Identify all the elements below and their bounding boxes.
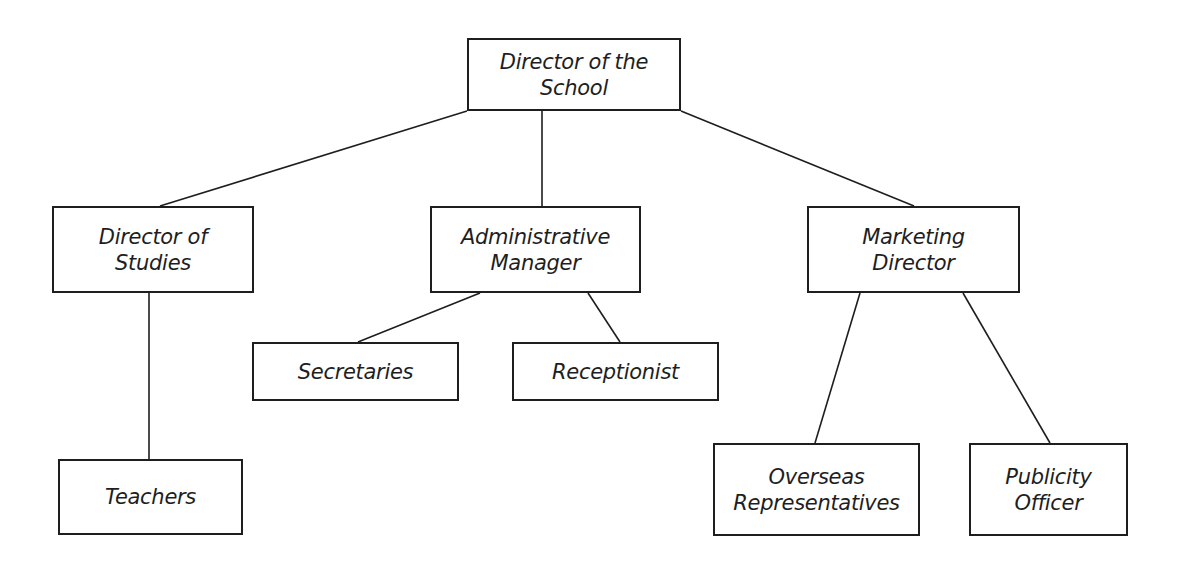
node-secretaries: Secretaries (252, 342, 459, 401)
node-label-line: Overseas (733, 464, 900, 490)
node-publicity: PublicityOfficer (969, 443, 1128, 536)
node-label-line: Teachers (105, 484, 196, 510)
org-chart: Director of theSchoolDirector ofStudiesA… (0, 0, 1177, 570)
connector-director-studies (160, 111, 467, 206)
connector-marketing-publicity (963, 293, 1050, 443)
node-label-line: Officer (1005, 490, 1091, 516)
node-receptionist: Receptionist (512, 342, 719, 401)
node-label-line: Studies (99, 250, 207, 276)
connector-admin-receptionist (588, 293, 620, 342)
connector-admin-secretaries (358, 293, 480, 342)
node-label-line: Director of (99, 224, 207, 250)
connector-marketing-overseas (815, 293, 860, 443)
node-label-line: Secretaries (298, 359, 413, 385)
node-label-line: School (500, 75, 648, 101)
node-admin: AdministrativeManager (430, 206, 641, 293)
node-label-line: Director (862, 250, 965, 276)
node-label-line: Receptionist (552, 359, 679, 385)
connector-director-marketing (681, 111, 914, 206)
node-label-line: Marketing (862, 224, 965, 250)
node-label-line: Director of the (500, 49, 648, 75)
node-label-line: Administrative (461, 224, 610, 250)
node-overseas: OverseasRepresentatives (713, 443, 920, 536)
node-director: Director of theSchool (467, 38, 681, 111)
node-teachers: Teachers (58, 459, 243, 535)
node-label-line: Manager (461, 250, 610, 276)
node-marketing: MarketingDirector (807, 206, 1020, 293)
node-label-line: Publicity (1005, 464, 1091, 490)
node-label-line: Representatives (733, 490, 900, 516)
node-studies: Director ofStudies (52, 206, 254, 293)
